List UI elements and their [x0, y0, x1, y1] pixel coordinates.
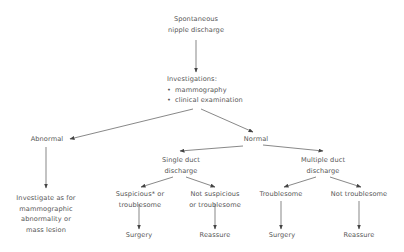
edge-investigations-abnormal	[70, 109, 193, 139]
node-line: discharge	[162, 166, 200, 177]
node-surgery-2: Surgery	[269, 230, 296, 241]
node-troublesome: Troublesome	[260, 189, 303, 200]
node-line: Not troublesome	[331, 189, 388, 200]
node-line: mammographic	[16, 204, 75, 215]
node-surgery-1: Surgery	[126, 230, 153, 241]
node-multiple-duct-discharge: Multiple duct discharge	[301, 155, 345, 176]
node-line: Single duct	[162, 155, 200, 166]
node-title: Investigations:	[167, 74, 243, 85]
node-line: troublesome	[116, 200, 164, 211]
node-suspicious-or-troublesome: Suspicious* or troublesome	[116, 189, 164, 210]
node-line: Reassure	[200, 230, 231, 241]
node-line: Reassure	[344, 230, 375, 241]
node-line: Surgery	[269, 230, 296, 241]
node-not-troublesome: Not troublesome	[331, 189, 388, 200]
node-abnormal: Abnormal	[31, 134, 64, 145]
node-spontaneous-nipple-discharge: Spontaneous nipple discharge	[168, 14, 224, 35]
node-investigations: Investigations: mammography clinical exa…	[167, 74, 243, 106]
bullet-clinical-examination: clinical examination	[167, 95, 243, 106]
node-line: Multiple duct	[301, 155, 345, 166]
bullet-mammography: mammography	[167, 85, 243, 96]
edge-single-notsuspicious	[186, 177, 215, 187]
node-line: Spontaneous	[168, 14, 224, 25]
node-line: Troublesome	[260, 189, 303, 200]
node-normal: Normal	[244, 134, 268, 145]
node-line: Suspicious* or	[116, 189, 164, 200]
node-line: Normal	[244, 134, 268, 145]
node-line: Not suspicious	[189, 189, 241, 200]
edge-investigations-normal	[201, 109, 253, 132]
node-line: Surgery	[126, 230, 153, 241]
node-line: Investigate as for	[16, 193, 75, 204]
node-line: discharge	[301, 166, 345, 177]
edge-single-suspicious	[141, 177, 173, 187]
edge-normal-multiple	[263, 145, 323, 151]
node-line: or troublesome	[189, 200, 241, 211]
edge-multiple-troublesome	[284, 177, 316, 187]
node-single-duct-discharge: Single duct discharge	[162, 155, 200, 176]
node-line: nipple discharge	[168, 25, 224, 36]
node-line: abnormality or	[16, 214, 75, 225]
edge-multiple-nottroublesome	[330, 177, 361, 187]
node-reassure-2: Reassure	[344, 230, 375, 241]
edge-normal-single	[180, 146, 243, 151]
node-line: mass lesion	[16, 225, 75, 236]
node-line: Abnormal	[31, 134, 64, 145]
node-investigate-as-for: Investigate as for mammographic abnormal…	[16, 193, 75, 235]
node-not-suspicious-or-troublesome: Not suspicious or troublesome	[189, 189, 241, 210]
node-reassure-1: Reassure	[200, 230, 231, 241]
